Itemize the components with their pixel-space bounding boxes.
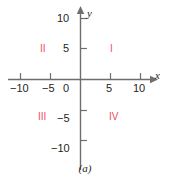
y-tick-label-minus5: −5	[57, 113, 70, 124]
x-tick-label-minus10: −10	[10, 83, 29, 94]
y-axis-arrow	[77, 6, 84, 14]
y-axis-label: y	[87, 8, 92, 19]
figure-caption: (a)	[0, 163, 170, 174]
coordinate-plane-figure: 10 5 0 −5 −10 −10 −5 5 10 y x I II III I…	[0, 0, 170, 186]
x-tick-label-10: 10	[133, 83, 145, 94]
quadrant-label-i: I	[110, 44, 113, 54]
origin-label: 0	[63, 83, 69, 94]
y-tick-label-10: 10	[57, 13, 69, 24]
y-tick-label-5: 5	[63, 43, 69, 54]
x-tick-label-5: 5	[106, 83, 112, 94]
quadrant-label-ii: II	[40, 44, 46, 54]
y-tick-label-minus10: −10	[51, 143, 70, 154]
x-axis-label: x	[155, 70, 160, 81]
quadrant-label-iii: III	[38, 112, 46, 122]
quadrant-label-iv: IV	[109, 112, 118, 122]
x-tick-label-minus5: −5	[42, 83, 55, 94]
